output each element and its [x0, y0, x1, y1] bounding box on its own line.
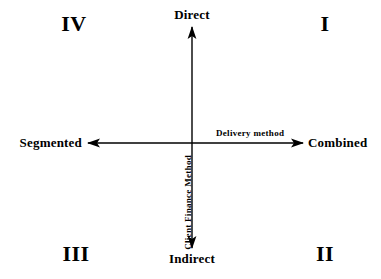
horizontal-axis-title: Delivery method: [216, 129, 284, 138]
vertical-axis-title: Client Finance Method: [184, 155, 193, 250]
quadrant-diagram: Direct Indirect Segmented Combined Deliv…: [0, 0, 381, 279]
axis-endpoint-indirect: Indirect: [169, 252, 215, 265]
axis-endpoint-combined: Combined: [308, 136, 367, 149]
axis-endpoint-segmented: Segmented: [20, 136, 82, 149]
quadrant-label-ii: II: [316, 243, 334, 265]
quadrant-label-i: I: [320, 13, 329, 35]
quadrant-label-iii: III: [62, 243, 89, 265]
axis-endpoint-direct: Direct: [174, 8, 210, 21]
quadrant-label-iv: IV: [61, 13, 86, 35]
